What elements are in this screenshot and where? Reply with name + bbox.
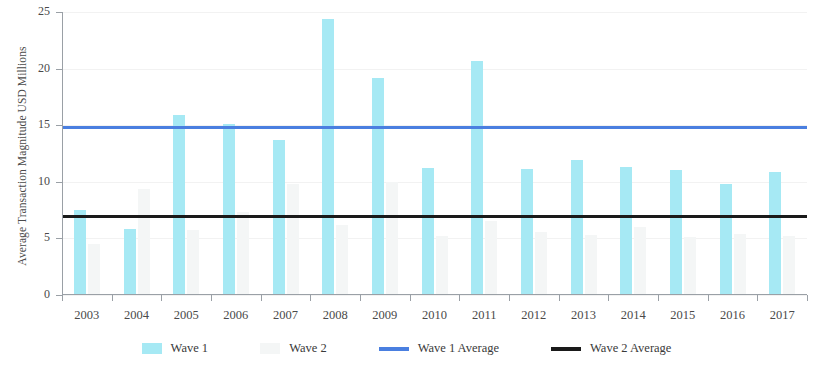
bar-wave-1-2009 <box>372 78 384 295</box>
legend-label: Wave 1 Average <box>418 341 499 356</box>
bar-wave-1-2015 <box>670 170 682 295</box>
bar-wave-2-2009 <box>386 182 398 295</box>
x-tick-mark <box>261 295 262 301</box>
y-axis-title: Average Transaction Magnitude USD Millio… <box>16 6 28 306</box>
x-tick-label-2013: 2013 <box>558 308 610 323</box>
x-tick-label-2008: 2008 <box>309 308 361 323</box>
y-tick-label: 15 <box>24 117 50 132</box>
x-tick-mark <box>62 295 63 301</box>
bar-wave-2-2014 <box>634 227 646 295</box>
x-tick-mark <box>608 295 609 301</box>
legend-label: Wave 2 Average <box>590 341 671 356</box>
legend-item-wave-2[interactable]: Wave 2 <box>260 341 327 356</box>
bar-wave-2-2011 <box>485 221 497 295</box>
x-tick-label-2004: 2004 <box>111 308 163 323</box>
x-tick-label-2011: 2011 <box>458 308 510 323</box>
legend-swatch-icon <box>551 347 581 351</box>
x-tick-label-2003: 2003 <box>61 308 113 323</box>
legend-item-wave-1[interactable]: Wave 1 <box>142 341 209 356</box>
x-tick-mark <box>708 295 709 301</box>
y-tick-mark <box>56 12 62 13</box>
bar-wave-1-2003 <box>74 210 86 295</box>
bar-wave-2-2017 <box>783 236 795 295</box>
x-axis-line <box>62 294 807 295</box>
y-tick-mark <box>56 125 62 126</box>
y-axis-line <box>62 12 63 295</box>
x-tick-label-2009: 2009 <box>359 308 411 323</box>
x-tick-mark <box>757 295 758 301</box>
wave2-average-line <box>62 215 807 218</box>
x-tick-mark <box>658 295 659 301</box>
bar-wave-2-2006 <box>237 212 249 295</box>
bar-wave-1-2006 <box>223 124 235 295</box>
gridline <box>62 12 807 13</box>
x-tick-label-2010: 2010 <box>409 308 461 323</box>
x-tick-mark <box>112 295 113 301</box>
x-tick-mark <box>509 295 510 301</box>
x-tick-label-2006: 2006 <box>210 308 262 323</box>
y-tick-label: 5 <box>24 230 50 245</box>
x-tick-label-2014: 2014 <box>607 308 659 323</box>
legend-item-wave-1-average[interactable]: Wave 1 Average <box>379 341 499 356</box>
bar-wave-1-2004 <box>124 229 136 295</box>
y-tick-label: 25 <box>24 4 50 19</box>
legend-item-wave-2-average[interactable]: Wave 2 Average <box>551 341 671 356</box>
bar-wave-1-2008 <box>322 19 334 295</box>
x-tick-mark <box>161 295 162 301</box>
x-tick-label-2007: 2007 <box>260 308 312 323</box>
bar-wave-1-2014 <box>620 167 632 295</box>
x-tick-mark <box>459 295 460 301</box>
x-tick-mark <box>559 295 560 301</box>
bar-wave-1-2013 <box>571 160 583 295</box>
bar-wave-2-2016 <box>734 234 746 295</box>
x-tick-label-2012: 2012 <box>508 308 560 323</box>
x-tick-label-2015: 2015 <box>657 308 709 323</box>
bar-wave-2-2003 <box>88 244 100 295</box>
x-tick-label-2017: 2017 <box>756 308 808 323</box>
y-tick-label: 0 <box>24 287 50 302</box>
bar-wave-1-2011 <box>471 61 483 295</box>
bar-wave-2-2004 <box>138 189 150 295</box>
bar-wave-1-2012 <box>521 169 533 295</box>
y-tick-mark <box>56 182 62 183</box>
x-tick-mark <box>807 295 808 301</box>
x-tick-label-2005: 2005 <box>160 308 212 323</box>
legend-swatch-icon <box>260 343 280 354</box>
chart-legend: Wave 1Wave 2Wave 1 AverageWave 2 Average <box>0 341 813 356</box>
legend-label: Wave 2 <box>289 341 327 356</box>
bar-wave-1-2017 <box>769 172 781 295</box>
x-tick-mark <box>211 295 212 301</box>
gridline <box>62 69 807 70</box>
bar-wave-2-2012 <box>535 232 547 295</box>
bar-wave-2-2007 <box>287 184 299 295</box>
x-tick-label-2016: 2016 <box>707 308 759 323</box>
legend-label: Wave 1 <box>171 341 209 356</box>
y-tick-mark <box>56 69 62 70</box>
y-tick-label: 10 <box>24 174 50 189</box>
x-tick-mark <box>360 295 361 301</box>
x-tick-mark <box>410 295 411 301</box>
chart-figure: Average Transaction Magnitude USD Millio… <box>0 0 813 367</box>
bar-wave-2-2005 <box>187 230 199 295</box>
y-tick-mark <box>56 238 62 239</box>
bar-wave-2-2008 <box>336 225 348 295</box>
plot-area: 0510152025 20032004200520062007200820092… <box>62 12 807 295</box>
wave1-average-line <box>62 126 807 129</box>
legend-swatch-icon <box>379 347 409 351</box>
bar-wave-2-2013 <box>585 235 597 295</box>
bar-wave-2-2010 <box>436 236 448 295</box>
x-tick-mark <box>310 295 311 301</box>
bar-wave-1-2016 <box>720 184 732 295</box>
legend-swatch-icon <box>142 343 162 354</box>
y-tick-label: 20 <box>24 61 50 76</box>
gridline <box>62 295 807 296</box>
bar-wave-1-2005 <box>173 115 185 295</box>
bar-wave-1-2010 <box>422 168 434 295</box>
bar-wave-2-2015 <box>684 237 696 295</box>
